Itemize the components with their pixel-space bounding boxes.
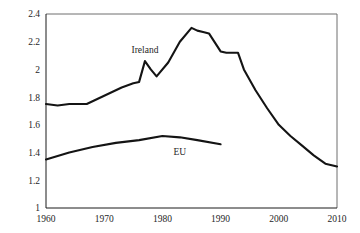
y-axis-tick-label: 1.6 bbox=[28, 120, 40, 130]
line-chart: 11.21.41.61.822.22.419601970198019902000… bbox=[0, 0, 360, 233]
series-line-eu bbox=[46, 136, 221, 160]
x-axis-tick-label: 2010 bbox=[328, 214, 347, 224]
series-annotation-ireland: Ireland bbox=[131, 45, 158, 55]
x-axis-tick-label: 1970 bbox=[95, 214, 114, 224]
axes bbox=[46, 14, 337, 208]
y-axis-tick-label: 1.2 bbox=[28, 176, 40, 186]
chart-container: 11.21.41.61.822.22.419601970198019902000… bbox=[0, 0, 360, 233]
y-axis-tick-label: 2.2 bbox=[28, 37, 40, 47]
y-axis-tick-label: 2 bbox=[35, 65, 40, 75]
y-axis-tick-label: 1 bbox=[35, 203, 40, 213]
y-axis-tick-label: 1.8 bbox=[28, 93, 40, 103]
y-axis-tick-label: 1.4 bbox=[28, 148, 40, 158]
x-axis-tick-label: 1980 bbox=[153, 214, 172, 224]
x-axis-tick-label: 1960 bbox=[37, 214, 56, 224]
y-axis-tick-label: 2.4 bbox=[28, 9, 40, 19]
plot-frame bbox=[46, 14, 337, 208]
series-annotation-eu: EU bbox=[174, 147, 187, 157]
x-axis-tick-label: 2000 bbox=[269, 214, 288, 224]
series-line-ireland bbox=[46, 28, 337, 167]
x-axis-tick-label: 1990 bbox=[211, 214, 230, 224]
